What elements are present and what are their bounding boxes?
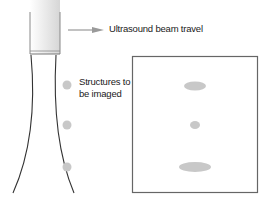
- imaged-structure: [179, 162, 211, 172]
- imaged-structures: [179, 82, 211, 173]
- structure-dot: [63, 163, 72, 172]
- transducer: [30, 0, 60, 54]
- beam-left-edge: [13, 55, 33, 193]
- beam-direction-arrow-icon: [68, 27, 104, 33]
- imaged-structure: [184, 82, 206, 91]
- beam-travel-label: Ultrasound beam travel: [109, 23, 203, 35]
- structures-label: Structures to be imaged: [79, 76, 139, 100]
- structures-label-line2: be imaged: [79, 88, 139, 100]
- structures-label-line1: Structures to: [79, 76, 139, 88]
- imaged-structure: [190, 121, 200, 129]
- beam-structures: [63, 81, 72, 172]
- structure-dot: [63, 121, 72, 130]
- structure-dot: [63, 81, 72, 90]
